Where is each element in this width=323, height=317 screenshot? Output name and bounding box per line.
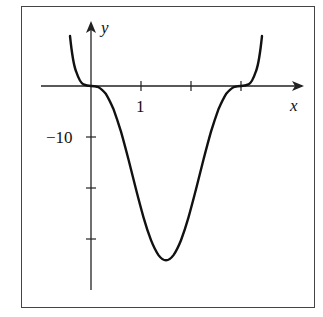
x-tick-label-1: 1	[136, 97, 145, 116]
x-axis-label: x	[289, 96, 298, 115]
function-plot: y x 1 −10	[0, 0, 323, 317]
function-curve	[70, 36, 262, 260]
y-tick-label-neg10: −10	[46, 128, 73, 147]
y-axis-label: y	[99, 18, 109, 37]
